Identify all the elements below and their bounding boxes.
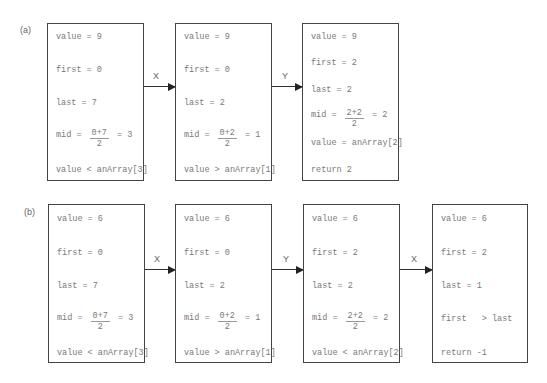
mid-result: = 3 (112, 130, 132, 140)
line-mid: mid = 0+22 = 1 (184, 307, 260, 329)
line-last: last = 1 (441, 281, 482, 291)
fraction-denominator: 2 (345, 119, 364, 130)
line-mid: mid = 0+72 = 3 (56, 124, 132, 146)
trace-box-a2: value = 9 first = 0 last = 2 mid = 0+22 … (175, 23, 272, 181)
line-comparison: value > anArray[1] (184, 348, 276, 358)
fraction-denominator: 2 (346, 322, 365, 333)
mid-fraction: 0+72 (90, 128, 109, 150)
line-comparison: value < anArray[3] (57, 348, 149, 358)
line-first: first = 0 (184, 248, 230, 258)
mid-prefix: mid = (184, 130, 215, 140)
fraction-denominator: 2 (91, 322, 110, 333)
line-value: value = 9 (56, 32, 102, 42)
line-value: value = 9 (311, 32, 357, 42)
mid-prefix: mid = (56, 130, 87, 140)
mid-result: = 2 (367, 110, 387, 120)
line-termination-check: first > last (441, 314, 512, 324)
arrow-label-b1: X (154, 254, 160, 264)
fraction-denominator: 2 (218, 139, 237, 150)
panel-label-b: (b) (24, 207, 35, 217)
line-first: first = 0 (184, 65, 230, 75)
line-first: first = 2 (441, 248, 487, 258)
mid-fraction: 0+72 (91, 311, 110, 333)
arrow-b1 (145, 269, 175, 270)
line-first: first = 0 (57, 248, 103, 258)
fraction-numerator: 0+2 (218, 128, 237, 139)
line-comparison: value < anArray[3] (56, 165, 148, 175)
trace-box-b4: value = 6 first = 2 last = 1 first > las… (432, 204, 528, 363)
panel-label-a: (a) (20, 25, 31, 35)
fraction-numerator: 0+2 (218, 311, 237, 322)
fraction-numerator: 2+2 (345, 108, 364, 119)
mid-prefix: mid = (57, 313, 88, 323)
line-first: first = 2 (311, 58, 357, 68)
arrow-a1 (144, 86, 175, 87)
line-value: value = 9 (184, 32, 230, 42)
mid-fraction: 2+22 (346, 311, 365, 333)
trace-box-a3: value = 9 first = 2 last = 2 mid = 2+22 … (302, 23, 399, 181)
line-mid: mid = 2+22 = 2 (312, 307, 388, 329)
line-return: return -1 (441, 348, 487, 358)
fraction-numerator: 2+2 (346, 311, 365, 322)
mid-fraction: 2+22 (345, 108, 364, 130)
line-return: return 2 (311, 165, 352, 175)
trace-box-b3: value = 6 first = 2 last = 2 mid = 2+22 … (303, 204, 400, 363)
line-last: last = 7 (56, 98, 97, 108)
mid-result: = 3 (113, 313, 133, 323)
line-value: value = 6 (184, 214, 230, 224)
line-comparison: value > anArray[1] (184, 165, 276, 175)
mid-result: = 2 (368, 313, 388, 323)
line-last: last = 2 (184, 281, 225, 291)
trace-box-b1: value = 6 first = 0 last = 7 mid = 0+72 … (48, 204, 145, 363)
arrow-a2 (272, 86, 302, 87)
line-last: last = 2 (184, 98, 225, 108)
arrow-label-b2: Y (283, 254, 289, 264)
arrow-b3 (400, 269, 432, 270)
mid-result: = 1 (240, 130, 260, 140)
mid-fraction: 0+22 (218, 311, 237, 333)
line-last: last = 2 (312, 281, 353, 291)
line-last: last = 2 (311, 85, 352, 95)
fraction-numerator: 0+7 (90, 128, 109, 139)
line-comparison: value = anArray[2] (311, 138, 403, 148)
line-value: value = 6 (441, 214, 487, 224)
trace-box-b2: value = 6 first = 0 last = 2 mid = 0+22 … (175, 204, 272, 363)
mid-prefix: mid = (312, 313, 343, 323)
fraction-denominator: 2 (90, 139, 109, 150)
mid-prefix: mid = (311, 110, 342, 120)
line-first: first = 0 (56, 65, 102, 75)
arrow-label-b3: X (411, 254, 417, 264)
mid-prefix: mid = (184, 313, 215, 323)
mid-fraction: 0+22 (218, 128, 237, 150)
arrow-label-a1: X (153, 71, 159, 81)
fraction-denominator: 2 (218, 322, 237, 333)
line-first: first = 2 (312, 248, 358, 258)
line-mid: mid = 0+72 = 3 (57, 307, 133, 329)
line-last: last = 7 (57, 281, 98, 291)
arrow-label-a2: Y (282, 71, 288, 81)
line-comparison: value < anArray[2] (312, 348, 404, 358)
line-mid: mid = 0+22 = 1 (184, 124, 260, 146)
mid-result: = 1 (240, 313, 260, 323)
trace-box-a1: value = 9 first = 0 last = 7 mid = 0+72 … (47, 23, 144, 181)
line-mid: mid = 2+22 = 2 (311, 104, 387, 126)
line-value: value = 6 (312, 214, 358, 224)
fraction-numerator: 0+7 (91, 311, 110, 322)
arrow-b2 (272, 269, 303, 270)
line-value: value = 6 (57, 214, 103, 224)
